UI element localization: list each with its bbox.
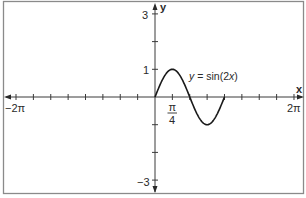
x-axis-left-arrow-icon bbox=[4, 95, 11, 100]
fraction-denominator: 4 bbox=[169, 114, 175, 126]
x-tick-label-neg2pi: −2π bbox=[5, 102, 26, 114]
y-axis bbox=[152, 3, 158, 193]
y-tick-label-1: 1 bbox=[143, 64, 149, 76]
y-tick-label-3: 3 bbox=[142, 9, 148, 21]
x-axis-label: x bbox=[296, 83, 303, 95]
fraction-numerator: π bbox=[169, 101, 177, 113]
curve-equation-label: y = sin(2x) bbox=[188, 70, 238, 82]
x-tick-label-2pi: 2π bbox=[287, 102, 301, 114]
x-tick-label-pi-over-4: π 4 bbox=[168, 101, 178, 126]
y-tick-label-neg3: −3 bbox=[137, 176, 150, 188]
sine-graph: y x 3 1 −3 −2π 2π π 4 y = sin(2x) bbox=[0, 0, 306, 198]
y-axis-label: y bbox=[160, 1, 167, 13]
x-axis bbox=[4, 94, 304, 100]
y-axis-up-arrow-icon bbox=[153, 3, 158, 10]
y-axis-down-arrow-icon bbox=[153, 186, 158, 193]
